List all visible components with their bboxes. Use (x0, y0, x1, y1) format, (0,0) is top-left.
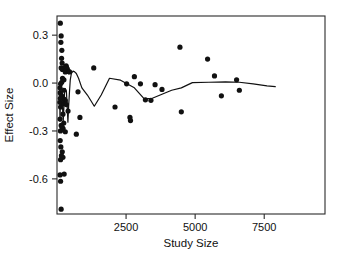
data-point (177, 45, 182, 50)
data-point (58, 157, 63, 162)
data-point (59, 56, 64, 61)
data-point (59, 207, 64, 212)
data-point (58, 40, 63, 45)
data-point (152, 82, 157, 87)
plot-frame (57, 16, 325, 214)
data-point (128, 118, 133, 123)
data-point (219, 93, 224, 98)
data-point (237, 88, 242, 93)
y-tick-label: 0.3 (33, 29, 48, 41)
data-point (179, 109, 184, 114)
data-point (58, 179, 63, 184)
data-point (74, 132, 79, 137)
data-point (58, 21, 63, 26)
data-point (77, 115, 82, 120)
y-tick-label: 0.0 (33, 77, 48, 89)
scatter-plot-figure: 250050007500 0.30.0-0.3-0.6 Study Size E… (0, 0, 340, 257)
x-axis-title: Study Size (164, 237, 219, 249)
y-tick-label: -0.6 (29, 173, 48, 185)
y-axis-title: Effect Size (3, 88, 15, 143)
data-point (132, 74, 137, 79)
data-point (58, 144, 63, 149)
data-point (138, 81, 143, 86)
data-point (58, 128, 63, 133)
trend-line (60, 71, 276, 122)
data-point (75, 89, 80, 94)
data-points (57, 21, 242, 212)
data-point (212, 73, 217, 78)
y-axis-ticks: 0.30.0-0.3-0.6 (29, 29, 57, 185)
data-point (63, 129, 68, 134)
y-tick-label: -0.3 (29, 125, 48, 137)
x-tick-label: 2500 (114, 221, 138, 233)
plot-canvas: 250050007500 0.30.0-0.3-0.6 Study Size E… (0, 0, 340, 257)
data-point (112, 104, 117, 109)
x-tick-label: 7500 (252, 221, 276, 233)
data-point (159, 87, 164, 92)
x-tick-label: 5000 (183, 221, 207, 233)
data-point (59, 33, 64, 38)
data-point (62, 171, 67, 176)
x-axis-ticks: 250050007500 (114, 214, 277, 233)
data-point (91, 65, 96, 70)
data-point (59, 48, 64, 53)
data-point (58, 138, 63, 143)
data-point (205, 57, 210, 62)
